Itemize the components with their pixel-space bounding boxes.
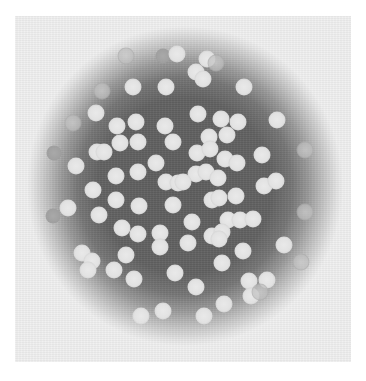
sphere-particle	[297, 204, 314, 221]
sphere-particle	[60, 200, 77, 217]
sphere-particle	[184, 214, 201, 231]
sphere-particle	[125, 79, 142, 96]
sphere-particle	[130, 226, 147, 243]
sphere-particle	[293, 254, 310, 271]
sphere-particle	[235, 243, 252, 260]
sphere-particle	[297, 142, 314, 159]
sphere-particle	[269, 112, 286, 129]
sphere-particle	[208, 55, 225, 72]
sphere-particle	[214, 255, 231, 272]
sphere-particle	[216, 296, 233, 313]
sphere-particle	[236, 79, 253, 96]
sphere-particle	[109, 118, 126, 135]
micrograph-panel	[15, 16, 351, 362]
sphere-particle	[85, 182, 102, 199]
sphere-particle	[190, 106, 207, 123]
sphere-particle	[118, 48, 135, 65]
sphere-particle	[211, 231, 228, 248]
sphere-particle	[276, 237, 293, 254]
sphere-particle	[175, 174, 192, 191]
sphere-particle	[188, 279, 205, 296]
sphere-particle	[130, 164, 147, 181]
caption-remnant	[15, 370, 351, 378]
sphere-particle	[46, 209, 61, 224]
sphere-particle	[114, 220, 131, 237]
sphere-particle	[158, 79, 175, 96]
sphere-particle	[112, 135, 129, 152]
sphere-particle	[228, 188, 245, 205]
sphere-particle	[211, 190, 228, 207]
sphere-particle	[130, 134, 147, 151]
sphere-particle	[91, 207, 108, 224]
sphere-particle	[165, 134, 182, 151]
sphere-particle	[108, 168, 125, 185]
sphere-particle	[219, 127, 236, 144]
sphere-particle	[165, 197, 182, 214]
sphere-particle	[169, 46, 186, 63]
sphere-particle	[196, 308, 213, 325]
sphere-particle	[68, 158, 85, 175]
sphere-particle	[108, 192, 125, 209]
sphere-particle	[195, 71, 212, 88]
sphere-particle	[268, 173, 285, 190]
sphere-particle	[88, 105, 105, 122]
sphere-particle	[80, 262, 97, 279]
sphere-particle	[148, 155, 165, 172]
sphere-particle	[118, 247, 135, 264]
sphere-particle	[213, 111, 230, 128]
sphere-particle	[96, 144, 113, 161]
sphere-particle	[202, 141, 219, 158]
sphere-particle	[106, 262, 123, 279]
sphere-particle	[94, 83, 111, 100]
sphere-particle	[47, 146, 62, 161]
sphere-particle	[133, 308, 150, 325]
sphere-particle	[152, 239, 169, 256]
sphere-particle	[254, 147, 271, 164]
sphere-particle	[180, 235, 197, 252]
sphere-particle	[245, 211, 262, 228]
sphere-particle	[229, 155, 246, 172]
sphere-particle	[155, 303, 172, 320]
sphere-particle	[210, 170, 227, 187]
sphere-particle	[167, 265, 184, 282]
sphere-particle	[252, 284, 269, 301]
sphere-particle	[131, 198, 148, 215]
sphere-particle	[65, 115, 82, 132]
sphere-particle	[126, 271, 143, 288]
sphere-particle	[128, 114, 145, 131]
sphere-particle	[157, 118, 174, 135]
